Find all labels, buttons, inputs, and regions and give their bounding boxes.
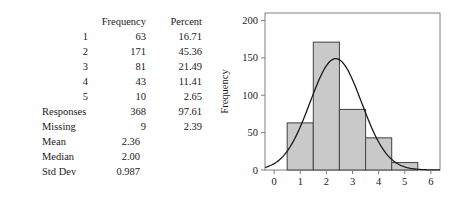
row-label: Missing [42,119,76,134]
table-row: 38121.49 [0,59,212,74]
x-axis-tick-label: 2 [324,176,329,187]
cell-percent: 11.41 [152,74,202,89]
histogram-bar [313,42,339,170]
x-axis-tick-label: 5 [402,176,407,187]
row-label: 5 [60,89,88,104]
y-axis-tick-label: 200 [242,15,258,26]
cell-frequency: 9 [96,119,146,134]
histogram-svg: 0501001502000123456Frequency [212,0,457,201]
histogram-bar [339,109,365,170]
row-label: 4 [60,74,88,89]
table-row: 5102.65 [0,89,212,104]
cell-percent: 21.49 [152,59,202,74]
column-header-percent: Percent [152,14,202,29]
table-row: Std Dev0.987 [0,164,212,179]
row-label: Median [42,149,74,164]
cell-frequency: 81 [96,59,146,74]
cell-percent: 2.65 [152,89,202,104]
x-axis-tick-label: 0 [272,176,277,187]
cell-frequency: 0.987 [90,164,140,179]
row-label: 1 [60,29,88,44]
table-header-row: FrequencyPercent [0,14,212,29]
table-row: 16316.71 [0,29,212,44]
y-axis-tick-label: 0 [253,165,258,176]
cell-percent: 16.71 [152,29,202,44]
cell-frequency: 43 [96,74,146,89]
y-axis-tick-label: 150 [242,52,258,63]
cell-percent: 97.61 [152,104,202,119]
cell-percent: 2.39 [152,119,202,134]
table-row: Missing92.39 [0,119,212,134]
x-axis-tick-label: 3 [350,176,355,187]
row-label: 2 [60,44,88,59]
cell-frequency: 10 [96,89,146,104]
column-header-frequency: Frequency [96,14,146,29]
table-row: 217145.36 [0,44,212,59]
table-row: 44311.41 [0,74,212,89]
table-row: Median2.00 [0,149,212,164]
x-axis-tick-label: 4 [376,176,382,187]
y-axis-title: Frequency [219,69,230,114]
row-label: Mean [42,134,66,149]
row-label: Std Dev [42,164,76,179]
row-label: 3 [60,59,88,74]
table-row: Mean2.36 [0,134,212,149]
table-row: Responses36897.61 [0,104,212,119]
frequency-statistics-table: FrequencyPercent16316.71217145.3638121.4… [0,0,212,201]
row-label: Responses [42,104,86,119]
cell-percent: 45.36 [152,44,202,59]
x-axis-tick-label: 6 [428,176,433,187]
histogram-bar [287,123,313,170]
frequency-histogram-chart: 0501001502000123456Frequency [212,0,457,201]
cell-frequency: 63 [96,29,146,44]
cell-frequency: 2.36 [90,134,140,149]
cell-frequency: 171 [96,44,146,59]
cell-frequency: 2.00 [90,149,140,164]
y-axis-tick-label: 50 [248,127,259,138]
x-axis-tick-label: 1 [298,176,303,187]
y-axis-tick-label: 100 [242,90,258,101]
cell-frequency: 368 [96,104,146,119]
